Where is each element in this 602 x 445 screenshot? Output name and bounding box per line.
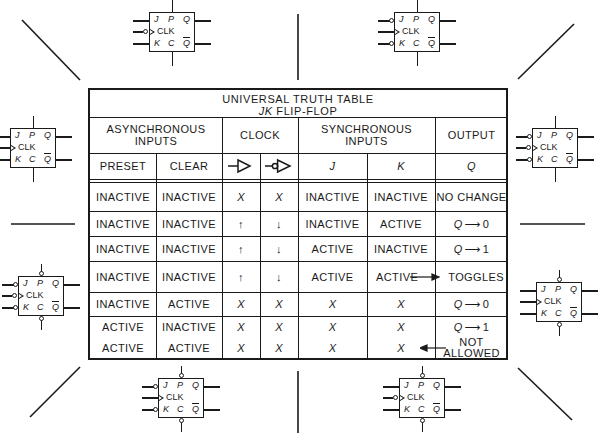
inversion-bubble-icon bbox=[420, 418, 425, 423]
row-2-clk-neg: ↓ bbox=[260, 236, 298, 261]
truth-table: UNIVERSAL TRUTH TABLE JK FLIP-FLOP ASYNC… bbox=[88, 88, 508, 360]
inversion-bubble-icon bbox=[153, 384, 158, 389]
row-2-clear: INACTIVE bbox=[156, 236, 222, 261]
flip-flop-symbol-top-left: JPQCLKKCQ bbox=[127, 0, 217, 70]
label-p: P bbox=[413, 15, 419, 24]
qbar-pin bbox=[204, 409, 220, 411]
label-k: K bbox=[23, 303, 29, 312]
row-5-clear: INACTIVE bbox=[156, 316, 222, 338]
q-pin bbox=[578, 136, 594, 138]
row-5-clk-neg: X bbox=[260, 316, 298, 338]
clk-pin bbox=[133, 31, 143, 33]
label-c: C bbox=[418, 405, 425, 414]
label-q: Q bbox=[570, 285, 577, 294]
clk-pin bbox=[520, 301, 536, 303]
row-4-preset: INACTIVE bbox=[90, 292, 156, 316]
qbar-pin bbox=[56, 159, 72, 161]
row-3-output: TOGGLES bbox=[435, 261, 508, 292]
clear-pin bbox=[422, 422, 424, 432]
row-4-clear: ACTIVE bbox=[156, 292, 222, 316]
header-clear: CLEAR bbox=[156, 153, 222, 179]
row-0-clk-pos: X bbox=[222, 183, 260, 211]
clear-pin bbox=[181, 422, 183, 432]
table-spacer bbox=[88, 348, 508, 358]
inversion-bubble-icon bbox=[39, 271, 44, 276]
label-q-bar: Q bbox=[192, 405, 199, 414]
label-j: J bbox=[163, 381, 168, 390]
output-q: Q bbox=[454, 298, 463, 310]
inversion-bubble-icon bbox=[527, 134, 532, 139]
row-5-output: Q⟶1 bbox=[435, 316, 508, 338]
label-k: K bbox=[541, 309, 547, 318]
clock-triangle-icon bbox=[537, 299, 542, 305]
header-sync-inputs: SYNCHRONOUS INPUTS bbox=[298, 117, 435, 153]
row-3-preset: INACTIVE bbox=[90, 261, 156, 292]
q-pin bbox=[195, 20, 211, 22]
clear-pin bbox=[417, 52, 419, 66]
clk-pin bbox=[2, 295, 12, 297]
qbar-pin bbox=[440, 43, 456, 45]
clk-pin bbox=[516, 147, 526, 149]
label-q-bar: Q bbox=[428, 39, 435, 48]
row-4-clk-pos: X bbox=[222, 292, 260, 316]
label-q-bar: Q bbox=[570, 309, 577, 318]
header-async-inputs: ASYNCHRONOUS INPUTS bbox=[90, 117, 222, 153]
inversion-bubble-icon bbox=[143, 29, 148, 34]
label-q: Q bbox=[192, 381, 199, 390]
label-clk: CLK bbox=[544, 297, 562, 306]
row-0-clk-neg: X bbox=[260, 183, 298, 211]
table-title: UNIVERSAL TRUTH TABLE bbox=[90, 93, 506, 105]
inversion-bubble-icon bbox=[526, 145, 531, 150]
row-4-j: X bbox=[298, 292, 367, 316]
qbar-pin bbox=[64, 307, 80, 309]
label-q: Q bbox=[52, 279, 59, 288]
label-p: P bbox=[168, 15, 174, 24]
preset-pin bbox=[172, 0, 174, 12]
output-q: Q bbox=[454, 321, 463, 333]
label-clk: CLK bbox=[540, 143, 558, 152]
row-2-j: ACTIVE bbox=[298, 236, 367, 261]
arrow-right-icon: ⟶ bbox=[465, 321, 481, 333]
j-pin bbox=[383, 386, 399, 388]
row-3-clear: INACTIVE bbox=[156, 261, 222, 292]
header-j: J bbox=[298, 153, 367, 179]
clock-triangle-icon bbox=[400, 395, 405, 401]
subtitle-flip-flop: FLIP-FLOP bbox=[273, 105, 338, 117]
header-k: K bbox=[367, 153, 435, 179]
label-q-bar: Q bbox=[566, 155, 573, 164]
inversion-bubble-icon bbox=[420, 373, 425, 378]
clear-pin bbox=[172, 52, 174, 66]
row-1-j: INACTIVE bbox=[298, 211, 367, 236]
clear-pin bbox=[33, 168, 35, 182]
row-1-output: Q⟶0 bbox=[435, 211, 508, 236]
inversion-bubble-icon bbox=[393, 395, 398, 400]
output-value: 0 bbox=[483, 218, 490, 230]
inversion-bubble-icon bbox=[389, 41, 394, 46]
k-pin bbox=[133, 43, 149, 45]
row-3-clk-pos: ↑ bbox=[222, 261, 260, 292]
clear-pin bbox=[555, 168, 557, 182]
label-p: P bbox=[418, 381, 424, 390]
inversion-bubble-icon bbox=[389, 18, 394, 23]
label-p: P bbox=[177, 381, 183, 390]
clock-triangle-icon bbox=[159, 395, 164, 401]
row-2-clk-pos: ↑ bbox=[222, 236, 260, 261]
label-clk: CLK bbox=[157, 27, 175, 36]
label-clk: CLK bbox=[18, 143, 36, 152]
inversion-bubble-icon bbox=[557, 322, 562, 327]
label-c: C bbox=[177, 405, 184, 414]
label-j: J bbox=[15, 131, 20, 140]
row-0-k: INACTIVE bbox=[367, 183, 435, 211]
q-pin bbox=[582, 290, 598, 292]
label-p: P bbox=[551, 131, 557, 140]
clear-pin bbox=[41, 320, 43, 330]
label-j: J bbox=[154, 15, 159, 24]
q-pin bbox=[440, 20, 456, 22]
flip-flop-symbol-bottom-left: JPQCLKKCQ bbox=[136, 366, 226, 436]
label-j: J bbox=[23, 279, 28, 288]
header-q: Q bbox=[435, 153, 508, 179]
inversion-bubble-icon bbox=[13, 282, 18, 287]
arrow-right-icon: ⟶ bbox=[465, 298, 481, 310]
label-c: C bbox=[413, 39, 420, 48]
clk-pin bbox=[378, 31, 394, 33]
